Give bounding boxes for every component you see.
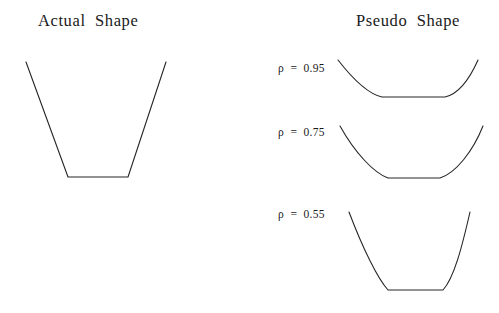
figure-canvas: Actual Shape Pseudo Shape ρ = 0.95 ρ = 0… <box>0 0 499 313</box>
actual-shape-curve <box>26 62 166 177</box>
shape-drawing-layer <box>0 0 499 313</box>
pseudo-shape-curve-rho-055 <box>349 212 470 290</box>
pseudo-shape-curve-rho-095 <box>338 60 478 97</box>
pseudo-shape-curve-rho-075 <box>340 126 483 178</box>
